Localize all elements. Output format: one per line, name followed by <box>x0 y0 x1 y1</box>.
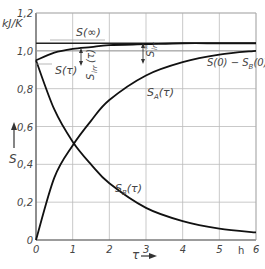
x-tick-label: 3 <box>143 244 149 255</box>
annotation-s-irr-tau: S irr (τ) <box>85 49 99 80</box>
x-tick-label: 0 <box>33 244 39 255</box>
svg-text:S: S <box>85 73 96 80</box>
svg-text:irr: irr <box>91 64 99 73</box>
svg-text:irr: irr <box>151 41 159 50</box>
y-axis-label: S <box>9 122 17 166</box>
arrow-right-icon <box>149 253 157 259</box>
y-tick-label: 0,6 <box>17 122 33 133</box>
y-unit-label: kJ/K <box>2 17 23 30</box>
y-tick-label: 0 <box>27 235 33 246</box>
annotation-sa: SA(τ) <box>147 86 174 101</box>
annotation-s-tau: S(τ) <box>55 64 77 77</box>
arrow-up-icon <box>11 122 17 130</box>
x-unit-label: h <box>238 245 244 256</box>
annotation-sb: SB(τ) <box>115 182 142 197</box>
svg-text:τ: τ <box>132 248 140 262</box>
x-tick-label: 4 <box>180 244 186 255</box>
entropy-chart: 012345600,20,40,60,81,01,2 kJ/K S τ h S(… <box>0 0 265 269</box>
x-tick-label: 5 <box>216 244 222 255</box>
svg-text:SB(τ): SB(τ) <box>115 182 142 197</box>
y-tick-label: 0,8 <box>17 84 33 95</box>
annotation-s-inf: S(∞) <box>76 26 101 39</box>
svg-text:SA(τ): SA(τ) <box>147 86 174 101</box>
svg-text:(τ): (τ) <box>85 49 96 63</box>
svg-text:S: S <box>145 50 156 57</box>
svg-text:S: S <box>9 152 17 166</box>
x-tick-label: 6 <box>253 244 259 255</box>
y-tick-label: 0,2 <box>17 197 33 208</box>
y-tick-label: 0,4 <box>17 159 33 170</box>
y-tick-label: 1,0 <box>17 46 33 57</box>
x-tick-label: 2 <box>106 244 112 255</box>
x-tick-label: 1 <box>70 244 76 255</box>
